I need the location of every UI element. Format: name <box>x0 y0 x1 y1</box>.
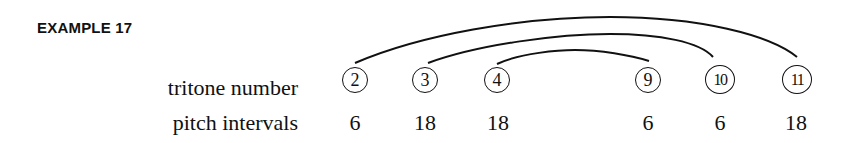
arc-4-9 <box>497 50 649 64</box>
tritone-circle: 10 <box>705 65 735 94</box>
interval-value: 18 <box>473 110 523 136</box>
pitch-intervals-label: pitch intervals <box>173 110 298 136</box>
tritone-circle: 9 <box>635 67 661 93</box>
interval-value: 6 <box>623 110 673 136</box>
interval-value: 6 <box>695 110 745 136</box>
interval-value: 18 <box>771 110 821 136</box>
interval-value: 6 <box>330 110 380 136</box>
tritone-circle: 3 <box>412 67 438 93</box>
interval-value: 18 <box>400 110 450 136</box>
arc-2-11 <box>355 17 797 63</box>
tritone-circle: 4 <box>484 67 510 93</box>
tritone-circle: 11 <box>782 65 812 94</box>
arc-3-10 <box>428 34 713 63</box>
tritone-number-label: tritone number <box>168 75 298 101</box>
tritone-circle: 2 <box>342 67 368 93</box>
